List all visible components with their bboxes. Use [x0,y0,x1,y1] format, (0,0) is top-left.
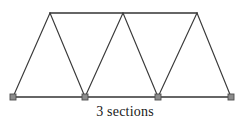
diagonal-member-5 [158,13,197,97]
diagonal-member-6 [197,13,231,97]
truss-members [13,13,231,97]
diagonal-member-1 [13,13,50,97]
truss-figure: 3 sections [0,0,250,124]
diagonal-member-4 [123,13,158,97]
diagonal-member-3 [85,13,123,97]
diagonal-member-2 [50,13,85,97]
caption-container: 3 sections [0,100,250,124]
figure-caption: 3 sections [96,105,154,119]
